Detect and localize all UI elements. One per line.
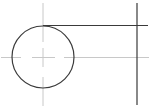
drawing-svg	[0, 0, 157, 112]
cad-drawing-canvas	[0, 0, 157, 112]
